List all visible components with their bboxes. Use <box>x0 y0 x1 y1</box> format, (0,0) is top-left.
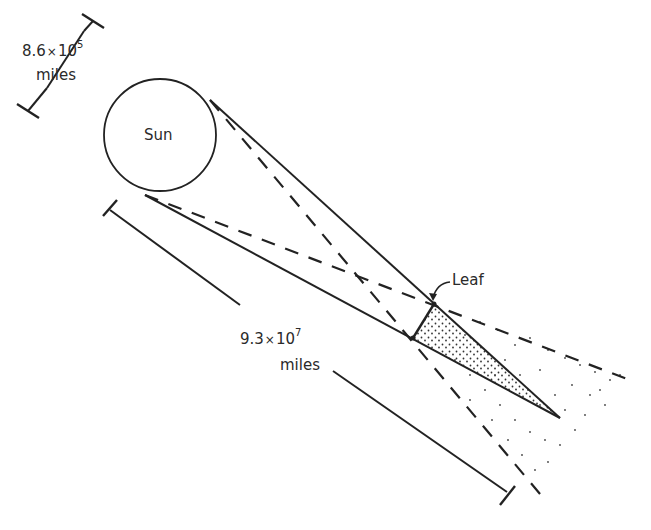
sun-distance-base: 10 <box>276 330 295 348</box>
sun-diameter-times: × <box>46 45 58 59</box>
sun-distance-mantissa: 9.3 <box>240 330 264 348</box>
leaf-label: Leaf <box>452 273 484 288</box>
sun-diameter-value: 8.6×105 <box>22 42 83 59</box>
sun-diameter-base: 10 <box>58 42 77 60</box>
sun-distance-value: 9.3×107 <box>240 330 301 347</box>
sun-label-text: Sun <box>144 126 173 144</box>
penumbra-ray-upper-to-lower <box>210 100 545 500</box>
sun-distance-times: × <box>264 333 276 347</box>
sun-diameter-exponent: 5 <box>77 39 83 50</box>
umbra-region <box>413 304 560 418</box>
sun-distance-unit: miles <box>280 358 320 373</box>
sun-label: Sun <box>144 128 173 143</box>
sun-distance-unit-text: miles <box>280 356 320 374</box>
sun-diameter-unit: miles <box>36 68 76 83</box>
sun-diameter-mantissa: 8.6 <box>22 42 46 60</box>
sun-distance-exponent: 7 <box>295 327 301 338</box>
sun-diameter-unit-text: miles <box>36 66 76 84</box>
leaf-label-text: Leaf <box>452 271 484 289</box>
sun-leaf-shadow-diagram <box>0 0 651 530</box>
